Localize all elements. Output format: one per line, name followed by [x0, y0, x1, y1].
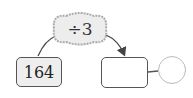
- result-input-box[interactable]: [101, 57, 148, 88]
- circle-connector: [148, 71, 158, 72]
- check-circle[interactable]: [158, 56, 186, 84]
- operation-label: ÷3: [54, 14, 106, 44]
- start-value-box: 164: [16, 57, 62, 87]
- arrow-connector: [106, 35, 124, 54]
